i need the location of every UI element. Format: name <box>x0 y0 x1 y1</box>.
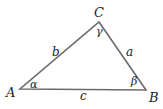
vertex-label-b: B <box>148 90 159 105</box>
side-label-a: a <box>126 45 133 59</box>
triangle-diagram: A B C b a c α β γ <box>0 0 163 109</box>
side-label-b: b <box>52 45 60 59</box>
angle-label-gamma: γ <box>96 25 103 38</box>
angle-label-beta: β <box>130 75 137 88</box>
side-label-c: c <box>80 89 87 103</box>
vertex-label-c: C <box>94 5 104 20</box>
vertex-label-a: A <box>5 85 15 100</box>
angle-label-alpha: α <box>30 78 38 91</box>
